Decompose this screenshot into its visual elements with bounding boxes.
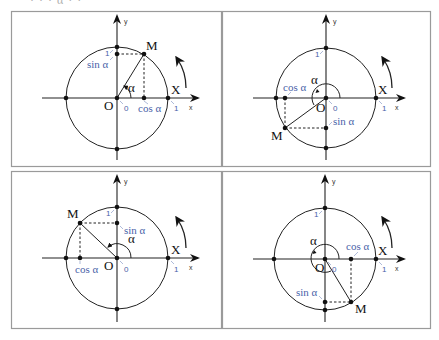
- label-x-point: X: [171, 242, 181, 257]
- label-x-axis: x: [395, 104, 399, 111]
- label-sin: sin α: [87, 58, 109, 70]
- panel-border: [223, 172, 431, 329]
- panel-quadrant-3: M α O X cos α sin α 0 1 1 x y: [223, 12, 431, 167]
- label-zero: 0: [333, 104, 338, 113]
- label-alpha: α: [310, 233, 317, 248]
- label-m: M: [271, 128, 283, 143]
- label-m: M: [355, 301, 367, 316]
- label-y-axis: y: [124, 178, 128, 186]
- label-origin: O: [104, 258, 113, 273]
- label-cos: cos α: [75, 263, 98, 275]
- label-x-point: X: [378, 82, 388, 97]
- label-one-x: 1: [174, 104, 179, 113]
- label-origin: O: [104, 98, 113, 113]
- label-x-axis: x: [189, 104, 193, 111]
- label-cos: cos α: [283, 81, 306, 93]
- label-cos: cos α: [346, 240, 369, 252]
- label-one-x: 1: [382, 104, 387, 113]
- radius-om: [80, 223, 117, 258]
- label-y-axis: y: [124, 18, 128, 26]
- label-one-y: 1: [105, 49, 110, 58]
- label-x-axis: x: [189, 264, 193, 271]
- label-one-y: 1: [315, 50, 320, 59]
- label-m: M: [146, 38, 158, 53]
- label-one-x: 1: [174, 265, 179, 274]
- label-zero: 0: [124, 104, 129, 113]
- panel-quadrant-1: M α O X sin α cos α 0 1 1 x y: [12, 12, 222, 167]
- label-alpha: α: [311, 72, 318, 87]
- radius-om: [325, 259, 351, 302]
- label-zero: 0: [124, 265, 129, 274]
- label-y-axis: y: [333, 18, 337, 26]
- panel-quadrant-2: M α O X sin α cos α 0 1 1 x y: [12, 172, 222, 329]
- label-alpha: α: [128, 80, 135, 95]
- panel-quadrant-4: M α O X cos α sin α 0 1 1 x y: [223, 172, 431, 329]
- label-m: M: [67, 206, 79, 221]
- label-one-y: 1: [106, 209, 111, 218]
- label-cos: cos α: [138, 102, 161, 114]
- label-sin: sin α: [296, 286, 318, 298]
- label-x-axis: x: [395, 265, 399, 272]
- label-x-point: X: [378, 243, 388, 258]
- label-origin: O: [316, 100, 325, 115]
- label-one-x: 1: [382, 265, 387, 274]
- unit-circle-diagram: M α O X sin α cos α 0 1 1 x y: [0, 0, 439, 340]
- label-sin: sin α: [124, 224, 146, 236]
- label-sin: sin α: [333, 115, 355, 127]
- label-origin: O: [315, 260, 324, 275]
- label-x-point: X: [171, 82, 181, 97]
- label-zero: 0: [332, 265, 337, 274]
- label-y-axis: y: [332, 178, 336, 186]
- label-one-y: 1: [314, 210, 319, 219]
